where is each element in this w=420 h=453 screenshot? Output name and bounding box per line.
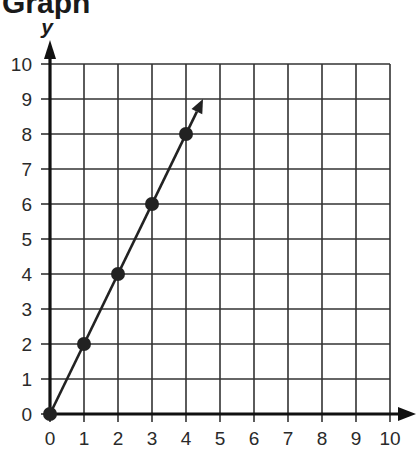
x-tick-label: 6 bbox=[249, 428, 260, 449]
line-graph: y012345678910012345678910 bbox=[0, 0, 420, 453]
y-tick-label: 2 bbox=[21, 334, 32, 355]
y-tick-label: 4 bbox=[21, 264, 32, 285]
grid-lines bbox=[41, 64, 390, 422]
data-point bbox=[43, 407, 57, 421]
data-point bbox=[77, 337, 91, 351]
y-axis-arrow-icon bbox=[44, 40, 56, 59]
x-tick-label: 1 bbox=[79, 428, 90, 449]
axes bbox=[44, 40, 416, 421]
y-tick-label: 0 bbox=[21, 404, 32, 425]
x-tick-label: 2 bbox=[113, 428, 124, 449]
y-tick-label: 9 bbox=[21, 89, 32, 110]
x-tick-label: 0 bbox=[45, 428, 56, 449]
x-tick-label: 4 bbox=[181, 428, 192, 449]
data-point bbox=[145, 197, 159, 211]
x-tick-label: 7 bbox=[283, 428, 294, 449]
y-tick-label: 3 bbox=[21, 299, 32, 320]
y-tick-label: 1 bbox=[21, 369, 32, 390]
data-point bbox=[179, 127, 193, 141]
x-tick-label: 3 bbox=[147, 428, 158, 449]
x-tick-label: 9 bbox=[351, 428, 362, 449]
y-tick-label: 7 bbox=[21, 159, 32, 180]
tick-labels: y012345678910012345678910 bbox=[11, 15, 401, 449]
data-point bbox=[111, 267, 125, 281]
x-tick-label: 10 bbox=[379, 428, 400, 449]
x-tick-label: 8 bbox=[317, 428, 328, 449]
y-tick-label: 8 bbox=[21, 124, 32, 145]
data-series bbox=[43, 99, 203, 421]
y-tick-label: 6 bbox=[21, 194, 32, 215]
x-axis-arrow-icon bbox=[398, 407, 416, 421]
y-axis-label: y bbox=[40, 15, 54, 38]
x-tick-label: 5 bbox=[215, 428, 226, 449]
y-tick-label: 10 bbox=[11, 54, 32, 75]
series-line bbox=[50, 112, 197, 414]
y-tick-label: 5 bbox=[21, 229, 32, 250]
